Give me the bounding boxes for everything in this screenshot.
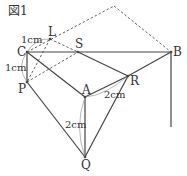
dashed-edge-c-top [27,6,114,52]
dashed-edges [27,6,171,82]
solid-edges [27,52,171,157]
vertex-p [26,81,29,84]
dashed-edge-top-b [114,6,171,52]
figure-title: 図1 [8,4,28,18]
dashed-edge-l-s [50,39,78,52]
label-c: C [17,45,26,59]
label-s: S [75,37,83,51]
label-r: R [130,74,140,88]
measure-c-p: 1cm [5,62,27,73]
measure-c-l: 1cm [21,34,43,45]
vertex-dots [26,38,173,159]
edge-s-r [78,52,128,76]
label-a: A [81,83,91,97]
vertex-s [77,51,80,54]
label-b: B [173,45,182,59]
label-l: L [48,25,56,39]
edge-r-b [128,52,171,76]
label-p: P [18,82,26,96]
vertex-r [127,75,130,78]
figure-1-diagram: 図1 C L S B [0,0,187,176]
measure-a-q: 2cm [65,119,87,130]
label-q: Q [81,158,91,172]
edge-c-a [27,52,85,97]
measure-a-r: 2cm [104,89,126,100]
vertex-b [170,51,173,54]
